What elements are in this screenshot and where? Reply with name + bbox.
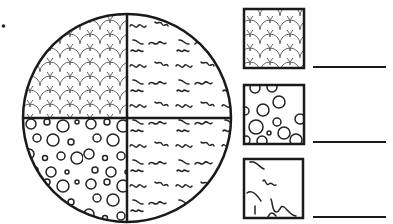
fraction-circle: [20, 12, 234, 224]
legend-item-squiggles: [244, 159, 386, 218]
legend-item-scales: [244, 9, 386, 68]
worksheet-figure: [0, 0, 393, 224]
legend-box-circles: [244, 85, 304, 144]
bullet-dot: [2, 24, 6, 28]
legend-item-circles: [241, 82, 386, 146]
